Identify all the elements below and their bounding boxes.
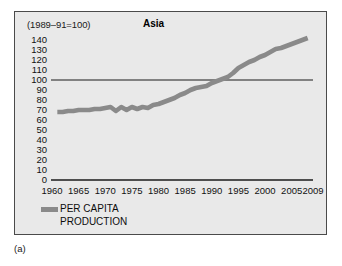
figure-caption: (a) bbox=[14, 243, 26, 254]
x-tick-label: 1960 bbox=[41, 186, 62, 196]
legend-label: PER CAPITA PRODUCTION bbox=[60, 203, 127, 228]
y-tick-label: 90 bbox=[21, 85, 47, 95]
chart-legend: PER CAPITA PRODUCTION bbox=[41, 203, 127, 228]
y-tick-label: 20 bbox=[21, 155, 47, 165]
y-tick-label: 0 bbox=[21, 175, 47, 185]
x-tick-label: 1980 bbox=[148, 186, 169, 196]
x-tick-label: 1975 bbox=[121, 186, 142, 196]
figure-root: (1989–91=100) Asia 010203040506070809010… bbox=[0, 0, 342, 266]
x-tick-label: 1965 bbox=[68, 186, 89, 196]
y-tick-label: 60 bbox=[21, 115, 47, 125]
y-tick-label: 80 bbox=[21, 95, 47, 105]
x-tick-label: 2005 bbox=[281, 186, 302, 196]
y-tick-label: 50 bbox=[21, 125, 47, 135]
y-tick-label: 100 bbox=[21, 75, 47, 85]
chart-panel: (1989–91=100) Asia 010203040506070809010… bbox=[14, 11, 327, 235]
y-tick-label: 30 bbox=[21, 145, 47, 155]
y-tick-label: 130 bbox=[21, 45, 47, 55]
y-tick-label: 40 bbox=[21, 135, 47, 145]
y-tick-label: 10 bbox=[21, 165, 47, 175]
x-tick-label: 1985 bbox=[175, 186, 196, 196]
series-line-per-capita-production bbox=[57, 38, 307, 112]
x-tick-label: 1990 bbox=[201, 186, 222, 196]
x-tick-label: 2009 bbox=[302, 186, 323, 196]
y-tick-label: 120 bbox=[21, 55, 47, 65]
y-tick-label: 70 bbox=[21, 105, 47, 115]
y-tick-label: 140 bbox=[21, 35, 47, 45]
x-tick-label: 2000 bbox=[254, 186, 275, 196]
y-tick-label: 110 bbox=[21, 65, 47, 75]
x-tick-label: 1970 bbox=[95, 186, 116, 196]
x-tick-label: 1995 bbox=[228, 186, 249, 196]
legend-color-swatch bbox=[41, 207, 58, 212]
